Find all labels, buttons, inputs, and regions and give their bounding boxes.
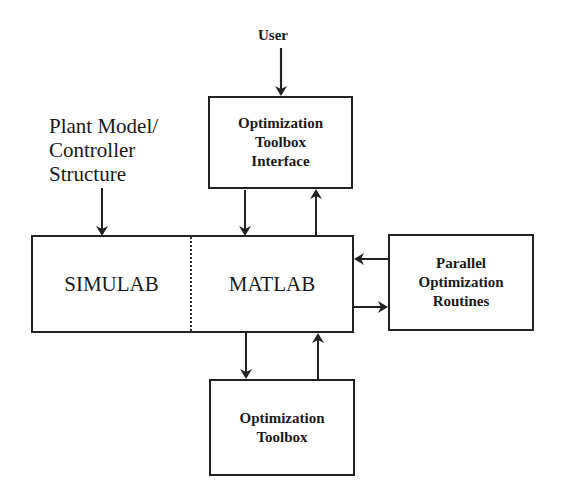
toolbox-label: Optimization Toolbox — [240, 409, 325, 447]
simulab-matlab-block: SIMULAB MATLAB — [31, 235, 354, 333]
optimization-toolbox-block: Optimization Toolbox — [209, 379, 355, 476]
matlab-label: MATLAB — [229, 272, 315, 297]
optimization-toolbox-interface-block: Optimization Toolbox Interface — [208, 96, 353, 189]
parallel-optimization-routines-block: Parallel Optimization Routines — [388, 234, 534, 331]
simulab-section: SIMULAB — [33, 237, 192, 331]
toolbox-interface-label: Optimization Toolbox Interface — [238, 114, 323, 171]
matlab-section: MATLAB — [192, 237, 352, 331]
simulab-label: SIMULAB — [64, 272, 159, 297]
parallel-routines-label: Parallel Optimization Routines — [419, 254, 504, 311]
user-label: User — [258, 26, 288, 45]
plant-model-label: Plant Model/ Controller Structure — [49, 114, 158, 186]
